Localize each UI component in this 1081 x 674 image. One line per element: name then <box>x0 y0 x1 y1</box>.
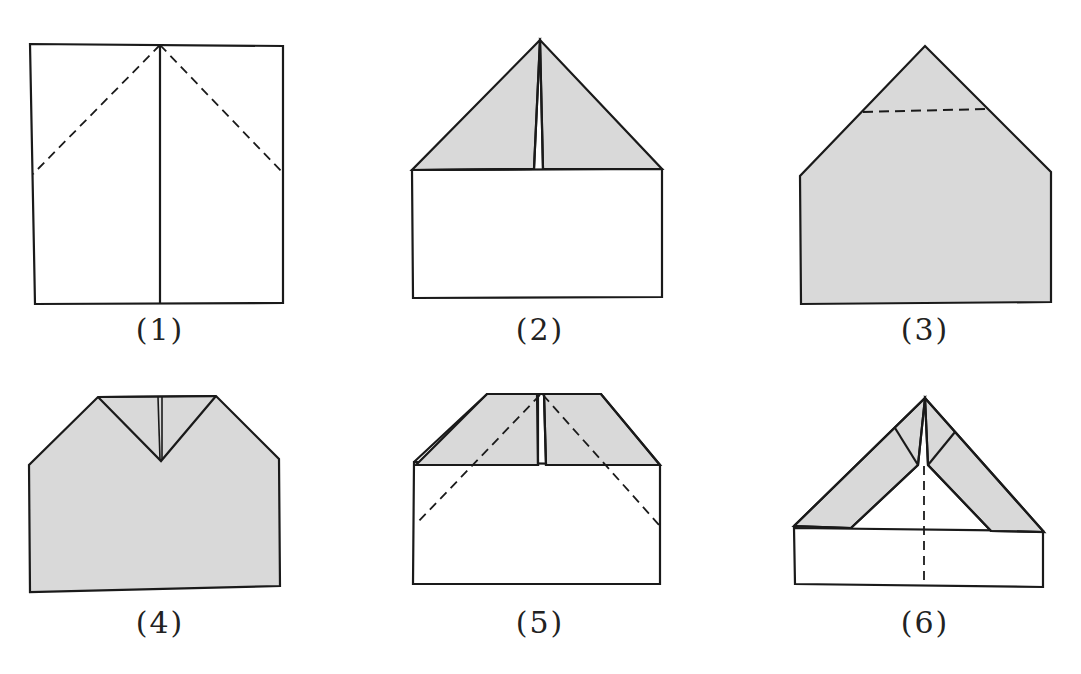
step-5-label: (5) <box>480 605 600 640</box>
step-6-figure <box>794 398 1044 587</box>
step-4-label: (4) <box>100 605 220 640</box>
step-1-figure <box>30 44 283 304</box>
step-2-label: (2) <box>480 312 600 347</box>
step-4-figure <box>29 396 280 592</box>
step-1-label: (1) <box>100 312 220 347</box>
step-3-figure <box>800 46 1051 304</box>
step-2-figure <box>412 40 662 298</box>
step-5-figure <box>413 394 660 584</box>
step-6-label: (6) <box>865 605 985 640</box>
step-3-label: (3) <box>865 312 985 347</box>
